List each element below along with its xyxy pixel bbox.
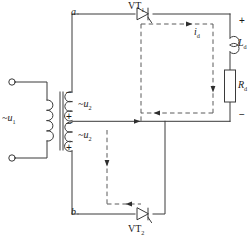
polarity-lower-plus: +: [66, 143, 72, 153]
source-label-u1: ~u1: [2, 113, 16, 125]
winding-label-u2-upper: ~u2: [78, 99, 92, 111]
polarity-upper-minus: −: [66, 88, 72, 98]
input-terminal-top: [9, 79, 47, 100]
inductor-label-ld: Ld: [238, 38, 247, 50]
current-direction-arrows: [105, 22, 216, 207]
primary-winding: [47, 100, 53, 141]
input-terminal-bottom: [9, 141, 47, 161]
thyristor-vt2[interactable]: [137, 208, 152, 222]
inductor-label-ld-subscript: d: [244, 43, 247, 50]
current-label-id-subscript: d: [197, 32, 200, 39]
node-label-a: a: [71, 7, 76, 17]
output-polarity-plus: +: [239, 16, 245, 26]
thyristor-vt1-label: VT1: [128, 1, 144, 13]
thyristor-vt2-label: VT2: [128, 224, 144, 236]
thyristor-vt2-label-subscript: 2: [141, 229, 144, 236]
winding-label-u2-upper-subscript: 2: [88, 104, 91, 111]
thyristor-vt1-label-subscript: 1: [141, 6, 144, 13]
secondary-winding-upper: [65, 14, 78, 121]
polarity-lower-minus: −: [66, 119, 72, 129]
resistor-label-rd: Rd: [238, 80, 247, 92]
schematic-svg: [0, 0, 250, 237]
transformer-core: [60, 92, 63, 150]
resistor-label-rd-subscript: d: [244, 85, 247, 92]
thyristor-vt2-label-text: VT: [128, 223, 141, 234]
resistor-rd: [225, 70, 236, 102]
current-path-lower: [107, 130, 141, 204]
secondary-winding-lower: [65, 122, 78, 214]
winding-label-u2-lower-text: ~u: [78, 129, 88, 140]
winding-label-u2-upper-text: ~u: [78, 98, 88, 109]
thyristor-vt1-label-text: VT: [128, 0, 141, 11]
source-label-u1-subscript: 1: [12, 118, 15, 125]
winding-label-u2-lower: ~u2: [78, 130, 92, 142]
winding-label-u2-lower-subscript: 2: [88, 135, 91, 142]
current-label-id: id: [194, 27, 200, 39]
circuit-diagram-canvas: a b ~u1 ~u2 ~u2 − + − + VT1 VT2 id Ld Rd…: [0, 0, 250, 237]
node-label-b: b: [71, 207, 76, 217]
current-path-upper: [141, 24, 213, 121]
output-polarity-minus: −: [239, 110, 245, 120]
source-label-u1-text: ~u: [2, 112, 12, 123]
